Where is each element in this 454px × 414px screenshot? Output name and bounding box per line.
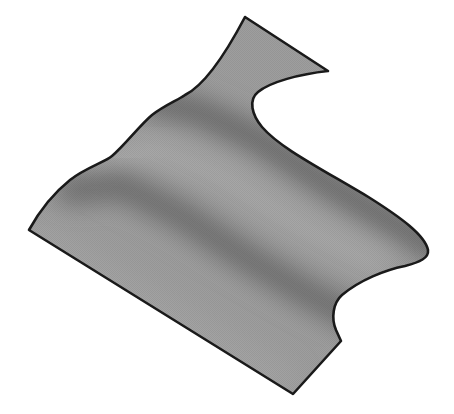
surface-figure: [0, 0, 454, 414]
surface-drawing: [0, 0, 454, 414]
